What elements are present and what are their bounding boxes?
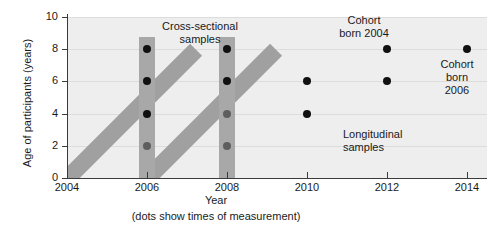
dot-cohort2006-2012-age6 xyxy=(383,77,391,85)
annotation-cross-sectional: Cross-sectional samples xyxy=(148,20,252,46)
y-tick-6 xyxy=(62,81,67,82)
dot-cohort2004-2012-age8 xyxy=(383,45,391,53)
x-tick-2010 xyxy=(307,172,308,178)
dot-cohort2004-2010-age6 xyxy=(303,77,311,85)
x-tick-2004 xyxy=(67,172,68,178)
annotation-cohort-2004: Cohort born 2004 xyxy=(322,14,406,40)
y-tick-10 xyxy=(62,17,67,18)
bar-cross-sectional-2008 xyxy=(219,37,235,178)
dot-2006-age8 xyxy=(143,45,151,53)
annotation-longitudinal-line2: samples xyxy=(343,141,433,154)
x-tick-label-2010: 2010 xyxy=(277,182,337,193)
y-tick-0 xyxy=(62,178,67,179)
y-tick-8 xyxy=(62,49,67,50)
dot-2008-age6 xyxy=(223,77,231,85)
y-tick-label-8: 8 xyxy=(30,43,58,54)
x-axis-line xyxy=(67,178,487,179)
x-tick-label-2008: 2008 xyxy=(197,182,257,193)
dot-2008-age4 xyxy=(223,110,231,118)
x-tick-2008 xyxy=(227,172,228,178)
annotation-cross-sectional-line1: Cross-sectional xyxy=(148,20,252,33)
x-tick-label-2012: 2012 xyxy=(357,182,417,193)
x-axis-title: Year xyxy=(0,194,467,206)
annotation-cohort-2006: Cohort born 2006 xyxy=(424,58,490,97)
dot-2006-age6 xyxy=(143,77,151,85)
x-tick-2012 xyxy=(387,172,388,178)
band-cohort-2004 xyxy=(67,44,202,178)
dot-cohort2006-2010-age4 xyxy=(303,110,311,118)
x-tick-label-2014: 2014 xyxy=(437,182,497,193)
annotation-cohort-2004-line2: born 2004 xyxy=(322,27,406,40)
dot-2006-age4 xyxy=(143,110,151,118)
y-axis-line xyxy=(67,14,68,179)
y-tick-label-10: 10 xyxy=(30,11,58,22)
x-axis-subtitle: (dots show times of measurement) xyxy=(0,210,467,222)
dot-2006-age2 xyxy=(143,142,151,150)
y-tick-4 xyxy=(62,114,67,115)
y-tick-label-6: 6 xyxy=(30,75,58,86)
y-tick-2 xyxy=(62,146,67,147)
annotation-longitudinal-line1: Longitudinal xyxy=(343,128,433,141)
x-tick-2006 xyxy=(147,172,148,178)
x-tick-2014 xyxy=(467,172,468,178)
x-tick-label-2004: 2004 xyxy=(37,182,97,193)
dot-cohort2006-2014-age8 xyxy=(463,45,471,53)
annotation-cohort-2006-line2: born xyxy=(424,71,490,84)
x-tick-label-2006: 2006 xyxy=(117,182,177,193)
band-cohort-2006 xyxy=(141,44,282,178)
annotation-cohort-2006-line1: Cohort xyxy=(424,58,490,71)
annotation-cohort-2006-line3: 2006 xyxy=(424,84,490,97)
dot-2008-age8 xyxy=(223,45,231,53)
dot-2008-age2 xyxy=(223,142,231,150)
annotation-longitudinal: Longitudinal samples xyxy=(343,128,433,154)
annotation-cohort-2004-line1: Cohort xyxy=(322,14,406,27)
chart-figure: 10 8 6 4 2 0 2004 2006 2008 2010 2012 20… xyxy=(0,0,502,234)
gridline-10 xyxy=(67,17,487,18)
y-tick-label-2: 2 xyxy=(30,140,58,151)
annotation-cross-sectional-line2: samples xyxy=(148,33,252,46)
y-tick-label-4: 4 xyxy=(30,108,58,119)
y-axis-title: Age of participants (years) xyxy=(21,18,33,188)
bar-cross-sectional-2006 xyxy=(139,37,155,178)
